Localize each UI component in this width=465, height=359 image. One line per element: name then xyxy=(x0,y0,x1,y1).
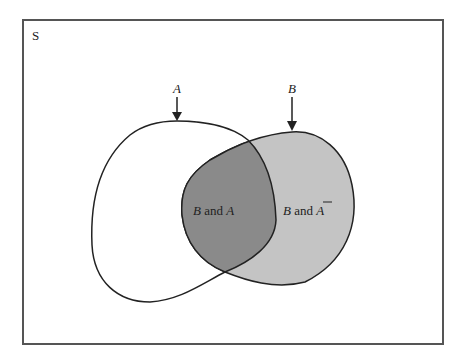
region-b-and-not-a-label: B and A xyxy=(283,203,324,218)
region-b-and-a-label: B and A xyxy=(193,203,234,218)
universe-label: S xyxy=(32,28,39,43)
set-b-label: B xyxy=(288,81,296,96)
venn-diagram: S A B B and A B and A xyxy=(0,0,465,359)
set-a-label: A xyxy=(172,81,181,96)
arrow-b-icon xyxy=(287,97,297,131)
arrow-a-icon xyxy=(172,97,182,121)
